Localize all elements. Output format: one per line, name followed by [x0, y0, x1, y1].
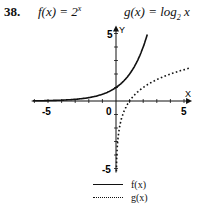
legend-item-g: g(x) — [93, 191, 148, 204]
svg-text:-5: -5 — [102, 164, 111, 175]
svg-text:Y: Y — [119, 25, 125, 35]
dotted-line-icon — [93, 197, 123, 198]
axes: -5055-5XY — [32, 25, 192, 175]
legend-label-f: f(x) — [131, 179, 146, 190]
svg-text:0: 0 — [106, 106, 112, 117]
g-curve — [116, 68, 190, 171]
chart: -5055-5XY — [0, 0, 202, 207]
f-curve — [33, 35, 147, 101]
svg-text:5: 5 — [107, 29, 113, 40]
legend: f(x) g(x) — [93, 178, 148, 204]
solid-line-icon — [93, 184, 123, 185]
svg-text:5: 5 — [181, 106, 187, 117]
svg-text:X: X — [185, 89, 191, 99]
svg-text:-5: -5 — [42, 106, 51, 117]
legend-label-g: g(x) — [131, 192, 148, 203]
legend-item-f: f(x) — [93, 178, 148, 191]
